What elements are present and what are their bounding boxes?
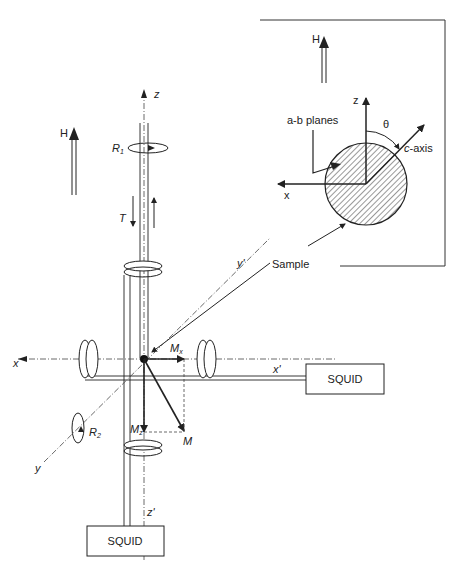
m-label: M bbox=[183, 435, 193, 447]
z-label: z bbox=[153, 88, 160, 100]
squid-bottom-box: SQUID bbox=[87, 526, 164, 556]
inset-x-label: x bbox=[284, 189, 290, 201]
field-label: H bbox=[60, 127, 68, 139]
ab-planes-label: a-b planes bbox=[287, 114, 339, 126]
z-pickup-coil-upper bbox=[124, 261, 162, 277]
r1-label: R1 bbox=[112, 142, 124, 155]
y-axis bbox=[44, 238, 270, 462]
c-axis-label: c-axis bbox=[404, 142, 433, 154]
inset-panel: H z x c-axis θ a-b planes bbox=[260, 20, 445, 266]
squid-right-box: SQUID bbox=[306, 364, 384, 394]
x-prime-label: x' bbox=[272, 363, 282, 375]
x-label: x bbox=[12, 357, 19, 369]
x-pickup-coil-right bbox=[197, 340, 216, 378]
y-label: y bbox=[34, 462, 42, 474]
r2-label: R2 bbox=[89, 426, 101, 439]
mz-label: Mz bbox=[130, 423, 143, 436]
z-prime-label: z' bbox=[146, 506, 156, 518]
mx-label: Mx bbox=[170, 342, 183, 355]
inset-field-label: H bbox=[312, 33, 320, 45]
squid-right-label: SQUID bbox=[328, 373, 363, 385]
inset-field-arrow-icon bbox=[319, 36, 329, 83]
squid-bottom-label: SQUID bbox=[108, 535, 143, 547]
sample-pointer bbox=[308, 224, 345, 246]
magnetometer-diagram: H z x c-axis θ a-b planes Sample H z z' bbox=[0, 0, 460, 571]
sample-label: Sample bbox=[272, 258, 309, 270]
inset-z-label: z bbox=[353, 94, 359, 106]
theta-label: θ bbox=[383, 118, 389, 130]
y-prime-label: y' bbox=[236, 257, 246, 269]
m-vector bbox=[144, 359, 184, 431]
sample-leader-line bbox=[152, 263, 270, 352]
field-arrow-icon bbox=[69, 127, 79, 195]
ab-planes-pointer bbox=[313, 130, 335, 173]
torque-label: T bbox=[119, 212, 127, 224]
x-pickup-coil-left bbox=[79, 340, 98, 378]
